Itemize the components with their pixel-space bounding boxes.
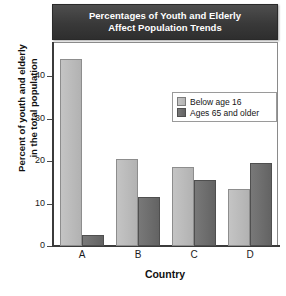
y-axis-title-line-2: in the total population xyxy=(28,58,39,157)
y-axis-tick xyxy=(47,76,52,77)
bar-b-series-2 xyxy=(138,197,160,246)
legend-label-ages-65-and-older: Ages 65 and older xyxy=(190,108,259,118)
chart-title-bar: Percentages of Youth and Elderly Affect … xyxy=(52,4,278,40)
chart-figure: Percentages of Youth and Elderly Affect … xyxy=(0,0,286,296)
y-axis-tick-label: 0 xyxy=(24,240,45,250)
y-axis-title-line-1: Percent of youth and elderly xyxy=(16,44,27,172)
x-axis-tick-label-b: B xyxy=(123,249,153,260)
y-axis-tick xyxy=(47,246,52,247)
bar-c-series-2 xyxy=(194,180,216,246)
legend-entry-below-age-16: Below age 16 xyxy=(177,96,272,107)
bar-c-series-1 xyxy=(172,167,194,246)
chart-title-line-1: Percentages of Youth and Elderly xyxy=(89,10,241,21)
bar-a-series-1 xyxy=(60,59,82,246)
chart-title: Percentages of Youth and Elderly Affect … xyxy=(83,10,247,35)
x-axis-tick-label-d: D xyxy=(235,249,265,260)
legend-swatch-ages-65-and-older xyxy=(177,108,186,117)
legend-entry-ages-65-and-older: Ages 65 and older xyxy=(177,107,272,118)
y-axis-tick xyxy=(47,119,52,120)
x-axis-tick-label-c: C xyxy=(179,249,209,260)
legend-label-below-age-16: Below age 16 xyxy=(190,97,242,107)
legend-swatch-below-age-16 xyxy=(177,97,186,106)
y-axis-tick-label: 10 xyxy=(24,198,45,208)
x-axis-tick-label-a: A xyxy=(67,249,97,260)
bar-d-series-2 xyxy=(250,163,272,246)
bar-b-series-1 xyxy=(116,159,138,246)
x-axis-title: Country xyxy=(52,268,278,280)
plot-area xyxy=(54,42,278,246)
y-axis-title: Percent of youth and elderly in the tota… xyxy=(16,23,40,193)
chart-title-line-2: Affect Population Trends xyxy=(108,22,222,33)
chart-legend: Below age 16 Ages 65 and older xyxy=(172,92,277,122)
y-axis-tick xyxy=(47,204,52,205)
bar-d-series-1 xyxy=(228,189,250,246)
bar-a-series-2 xyxy=(82,235,104,246)
y-axis-tick xyxy=(47,161,52,162)
